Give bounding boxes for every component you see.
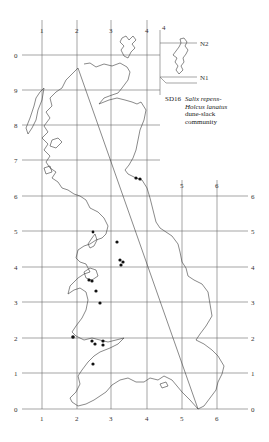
community-name: Salix repens- Holcus lanatus dune-slack … — [185, 96, 245, 126]
shetland-coast — [173, 38, 188, 74]
isle-of-man-coast — [88, 234, 97, 248]
col-label-bottom-6: 6 — [215, 415, 219, 423]
row-label-1: 1 — [14, 370, 18, 378]
row-label-9: 9 — [14, 87, 18, 95]
row-label-right-5: 5 — [251, 228, 255, 236]
row-label-4: 4 — [14, 264, 18, 272]
anglesey-coast — [84, 268, 98, 280]
outer-hebrides-coast — [26, 88, 44, 134]
col-label-bottom-4: 4 — [145, 415, 149, 423]
grid-labels: 1 2 3 4 5 6 0 9 8 7 6 5 4 3 2 1 0 6 5 4 … — [14, 27, 255, 423]
col-label-6: 6 — [215, 182, 219, 190]
inset-col-label: 4 — [162, 24, 166, 32]
row-label-0-top: 0 — [14, 52, 18, 60]
row-label-0: 0 — [14, 406, 18, 414]
distribution-map: 1 2 3 4 5 6 0 9 8 7 6 5 4 3 2 1 0 6 5 4 … — [0, 0, 269, 442]
row-label-right-4: 4 — [251, 264, 255, 272]
col-label-1: 1 — [40, 27, 44, 35]
inset-label-n2: N2 — [200, 40, 209, 48]
row-label-2: 2 — [14, 335, 18, 343]
row-label-right-0: 0 — [251, 406, 255, 414]
map-legend: SD16 Salix repens- Holcus lanatus dune-s… — [165, 96, 265, 136]
row-label-7: 7 — [14, 157, 18, 165]
row-label-8: 8 — [14, 122, 18, 130]
row-label-5: 5 — [14, 228, 18, 236]
row-label-right-1: 1 — [251, 370, 255, 378]
col-label-2: 2 — [75, 27, 79, 35]
col-label-5: 5 — [180, 182, 184, 190]
grid-lines — [22, 20, 248, 409]
col-label-3: 3 — [109, 27, 113, 35]
row-label-right-3: 3 — [251, 299, 255, 307]
community-line-2: community — [185, 119, 245, 127]
coastline — [26, 36, 224, 409]
col-label-bottom-2: 2 — [75, 415, 79, 423]
row-label-right-6: 6 — [251, 193, 255, 201]
isle-of-wight-coast — [160, 382, 168, 388]
row-label-6: 6 — [14, 193, 18, 201]
community-code: SD16 — [165, 96, 181, 104]
col-label-4: 4 — [145, 27, 149, 35]
row-label-right-2: 2 — [251, 335, 255, 343]
shetland-inset: 4 N2 N1 — [160, 24, 209, 95]
col-label-bottom-3: 3 — [109, 415, 113, 423]
inset-label-n1: N1 — [200, 74, 209, 82]
inner-hebrides-coast — [44, 138, 62, 174]
record-points — [71, 176, 141, 365]
row-label-3: 3 — [14, 299, 18, 307]
col-label-bottom-1: 1 — [40, 415, 44, 423]
col-label-bottom-5: 5 — [180, 415, 184, 423]
